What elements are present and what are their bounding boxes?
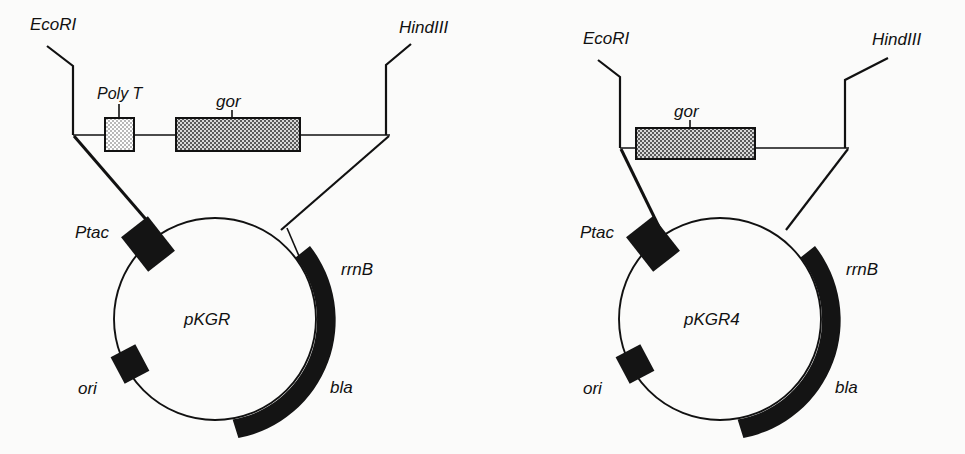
rrnb-label-left: rrnB [341, 260, 373, 279]
bla-label-right: bla [835, 378, 858, 397]
bla-label-left: bla [330, 378, 353, 397]
ori-block-left [111, 344, 150, 384]
expansion-line-right-2 [786, 149, 848, 230]
polyt-label-left: Poly T [97, 85, 144, 102]
polyt-box-left [105, 118, 134, 151]
plasmid-name-right: pKGR4 [683, 310, 740, 329]
ecori-label-right: EcoRI [583, 29, 630, 48]
ecori-leader-line-left [47, 46, 73, 135]
ptac-label-left: Ptac [75, 223, 110, 242]
ecori-label-left: EcoRI [30, 15, 77, 34]
bla-arc-right [738, 246, 841, 438]
gor-box-right [636, 128, 755, 159]
bla-arc-left [233, 246, 336, 438]
rrnb-leader-left [287, 228, 299, 256]
ptac-block-right [626, 216, 680, 272]
plasmid-map-figure: Poly T gor EcoRI HindIII rrnB bla Ptac [0, 0, 965, 454]
ptac-block-left [121, 216, 175, 272]
hindiii-leader-line-left [386, 44, 411, 135]
gor-label-right: gor [674, 102, 700, 121]
plasmid-name-left: pKGR [183, 310, 230, 329]
hindiii-leader-line-right [845, 58, 888, 148]
panel-left: Poly T gor EcoRI HindIII rrnB bla Ptac [30, 15, 448, 438]
ptac-label-right: Ptac [580, 223, 615, 242]
gor-label-left: gor [216, 92, 242, 111]
hindiii-label-right: HindIII [872, 30, 921, 49]
gor-box-left [176, 118, 300, 151]
ori-label-right: ori [583, 379, 603, 398]
hindiii-label-left: HindIII [399, 18, 448, 37]
figure-canvas: Poly T gor EcoRI HindIII rrnB bla Ptac [0, 0, 965, 454]
panel-right: gor EcoRI HindIII rrnB bla Ptac ori pKGR… [580, 29, 921, 438]
rrnb-label-right: rrnB [846, 260, 878, 279]
ori-block-right [616, 344, 655, 384]
expansion-line-right-1 [621, 149, 661, 231]
ori-label-left: ori [78, 379, 98, 398]
ecori-leader-line-right [598, 60, 620, 148]
